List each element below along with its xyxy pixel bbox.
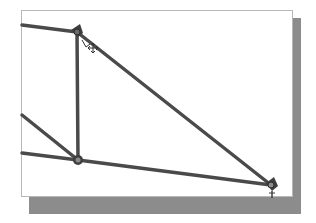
truss-drawing[interactable] — [0, 0, 316, 223]
node-b-joint-icon[interactable] — [73, 155, 83, 165]
member-top-left[interactable] — [22, 25, 77, 32]
node-c-joint-icon[interactable] — [266, 177, 278, 198]
member-vertical[interactable] — [77, 32, 78, 160]
